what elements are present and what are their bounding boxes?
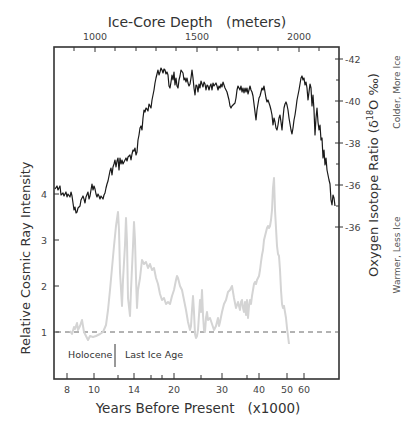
top-axis-tick-labels: 100015002000 <box>83 31 311 42</box>
y2-tick-label: -38 <box>345 138 361 149</box>
x-tick-label: 40 <box>253 384 265 395</box>
bottom-axis-tick-labels: 810142030405060 <box>64 384 310 395</box>
x-tick-label: 20 <box>168 384 180 395</box>
right-axis-tick-labels: -42-40-38-36-36 <box>345 54 361 233</box>
last-ice-age-label: Last Ice Age <box>125 349 183 360</box>
x-tick-label: 8 <box>64 384 70 395</box>
colder-more-ice-note: Colder, More Ice <box>392 55 402 129</box>
top-axis-title: Ice-Core Depth (meters) <box>108 14 287 30</box>
x-tick-label: 50 <box>281 384 293 395</box>
y2-tick-label: -42 <box>345 54 361 65</box>
x-tick-label: 10 <box>88 384 100 395</box>
x-tick-label: 30 <box>216 384 228 395</box>
oxygen-isotope-ratio-line <box>55 68 335 213</box>
cosmic-ray-intensity-line <box>70 178 289 344</box>
y-tick-label: 1 <box>41 327 47 338</box>
bottom-axis-ticks <box>67 373 304 379</box>
warmer-less-ice-note: Warmer, Less Ice <box>392 216 402 293</box>
y-tick-label: 2 <box>41 281 47 292</box>
y2-tick-label: -36 <box>345 180 361 191</box>
y2-tick-label: -36 <box>345 222 361 233</box>
x-tick-label: 14 <box>128 384 140 395</box>
x-axis-title: Years Before Present (x1000) <box>95 400 301 416</box>
top-tick-label: 1000 <box>83 31 107 42</box>
top-tick-label: 2000 <box>287 31 311 42</box>
y-tick-label: 4 <box>41 189 47 200</box>
plot-frame <box>54 47 339 379</box>
holocene-label: Holocene <box>68 349 112 360</box>
y-tick-label: 3 <box>41 235 47 246</box>
left-axis-title: Relative Cosmic Ray Intensity <box>18 161 33 354</box>
right-axis-title: Oxygen Isotope Ratio (δ18O ‰) <box>366 73 381 277</box>
top-tick-label: 1500 <box>185 31 209 42</box>
chart-figure: Ice-Core Depth (meters) 100015002000 Hol… <box>0 0 417 432</box>
left-axis-tick-labels: 1234 <box>41 189 47 338</box>
x-tick-label: 60 <box>298 384 310 395</box>
y2-tick-label: -40 <box>345 96 361 107</box>
